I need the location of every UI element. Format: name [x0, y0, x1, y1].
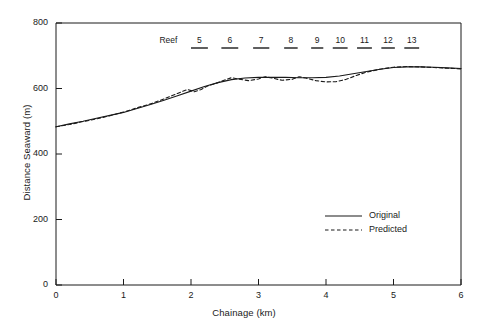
- x-axis-title: Chainage (km): [0, 307, 488, 318]
- data-series-group: [56, 67, 461, 127]
- axes: [56, 23, 461, 285]
- x-tick-label: 6: [446, 290, 476, 300]
- y-tick-label: 600: [8, 83, 48, 93]
- y-axis-ticks: [56, 23, 62, 285]
- legend-label-predicted: Predicted: [369, 224, 407, 234]
- y-tick-label: 800: [8, 17, 48, 27]
- x-tick-label: 2: [176, 290, 206, 300]
- reef-label-13: 13: [392, 35, 432, 45]
- x-axis-ticks: [56, 279, 461, 285]
- y-tick-label: 200: [8, 214, 48, 224]
- y-tick-label: 400: [8, 148, 48, 158]
- legend-label-original: Original: [369, 210, 400, 220]
- chart-canvas: [0, 0, 488, 331]
- reef-prefix-label: Reef: [137, 35, 177, 45]
- x-tick-label: 5: [379, 290, 409, 300]
- x-tick-label: 0: [41, 290, 71, 300]
- y-tick-label: 0: [8, 279, 48, 289]
- x-tick-label: 3: [244, 290, 274, 300]
- x-tick-label: 4: [311, 290, 341, 300]
- series-line-original: [56, 67, 461, 127]
- x-tick-label: 1: [109, 290, 139, 300]
- figure: Distance Seaward (m) Chainage (km) 02004…: [0, 0, 488, 331]
- legend-sample-lines: [325, 216, 362, 230]
- series-line-predicted: [56, 67, 461, 127]
